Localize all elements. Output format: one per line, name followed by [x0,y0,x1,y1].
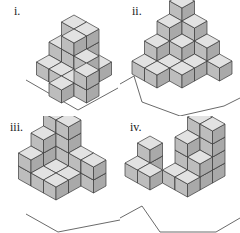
floor-outline [26,214,120,232]
panel-i: i. [0,0,120,116]
floor-outline [120,206,240,232]
panel-label-i: i. [14,4,20,19]
panel-iv: iv. [120,116,240,232]
panel-label-iv: iv. [130,120,142,135]
panel-label-iii: iii. [10,120,23,135]
panel-iii: iii. [0,116,120,232]
panel-ii: ii. [120,0,240,116]
panel-label-ii: ii. [132,4,142,19]
